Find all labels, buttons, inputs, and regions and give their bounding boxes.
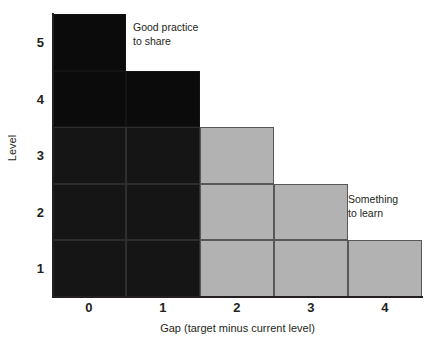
heatmap-cell-gap0-level4	[52, 71, 126, 128]
heatmap-cell-gap0-level2	[52, 184, 126, 241]
heatmap-cell-gap1-level4	[126, 71, 200, 128]
y-axis-title: Level	[6, 118, 18, 178]
plot-area	[52, 14, 422, 297]
heatmap-cell-gap1-level3	[126, 127, 200, 184]
x-tick-label-4: 4	[348, 300, 422, 315]
x-tick-label-3: 3	[274, 300, 348, 315]
heatmap-cell-gap4-level1	[348, 240, 422, 297]
y-tick-label-4: 4	[24, 92, 44, 107]
heatmap-cell-gap0-level1	[52, 240, 126, 297]
x-tick-label-0: 0	[52, 300, 126, 315]
x-tick-label-2: 2	[200, 300, 274, 315]
heatmap-cell-gap1-level2	[126, 184, 200, 241]
y-tick-label-2: 2	[24, 205, 44, 220]
y-tick-label-1: 1	[24, 261, 44, 276]
y-tick-label-3: 3	[24, 148, 44, 163]
annotation-something-to-learn: Something to learn	[348, 192, 428, 220]
heatmap-cell-gap0-level5	[52, 14, 126, 71]
heatmap-cell-gap1-level1	[126, 240, 200, 297]
y-axis-line	[52, 13, 54, 297]
x-axis-title: Gap (target minus current level)	[52, 322, 423, 334]
heatmap-cell-gap0-level3	[52, 127, 126, 184]
annotation-good-practice: Good practice to share	[133, 20, 223, 48]
heatmap-cell-gap3-level2	[274, 184, 348, 241]
x-axis-line	[52, 296, 423, 298]
heatmap-cell-gap2-level1	[200, 240, 274, 297]
x-tick-label-1: 1	[126, 300, 200, 315]
heatmap-chart: 0 1 2 3 4 5 4 3 2 1 Gap (target minus cu…	[0, 0, 438, 350]
y-tick-label-5: 5	[24, 35, 44, 50]
heatmap-cell-gap2-level3	[200, 127, 274, 184]
heatmap-cell-gap3-level1	[274, 240, 348, 297]
heatmap-cell-gap2-level2	[200, 184, 274, 241]
